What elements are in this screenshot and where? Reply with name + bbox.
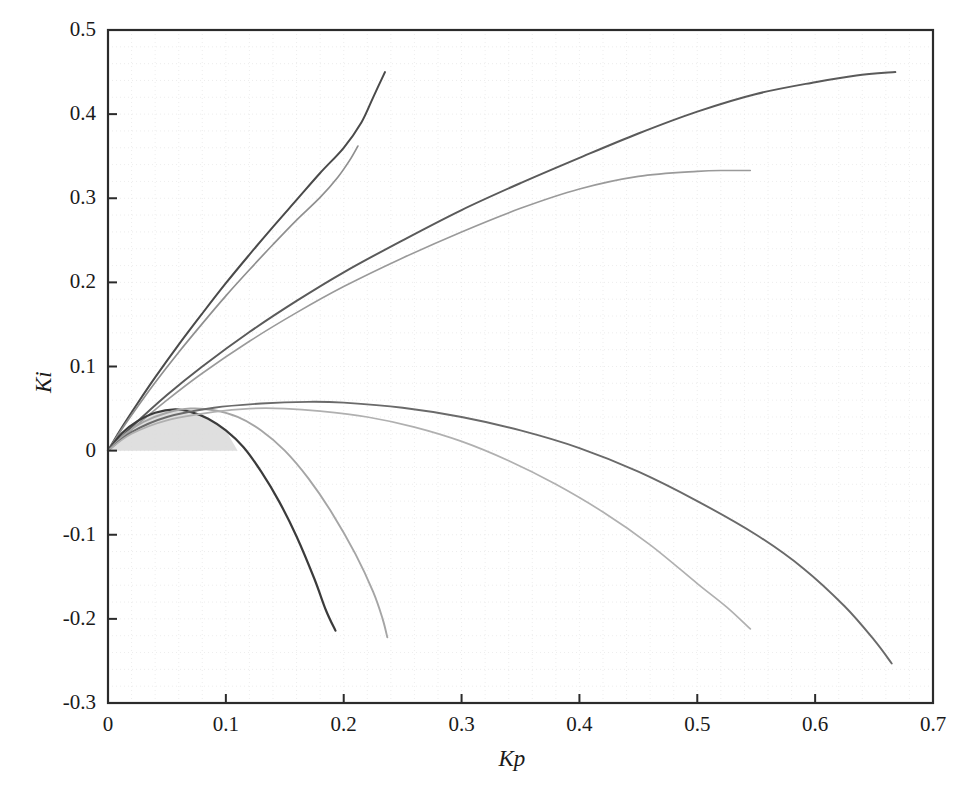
y-axis-tick-label: 0.4 xyxy=(70,103,96,124)
x-axis-tick-label: 0.3 xyxy=(422,714,502,735)
x-axis-tick-label: 0.2 xyxy=(304,714,384,735)
x-axis-tick-label: 0.6 xyxy=(775,714,855,735)
y-axis-tick-label: 0.2 xyxy=(70,271,96,292)
x-axis-tick-label: 0.5 xyxy=(657,714,737,735)
plot-figure: 0.50.40.30.20.10-0.1-0.2-0.300.10.20.30.… xyxy=(0,0,972,788)
y-axis-tick-label: 0.3 xyxy=(70,187,96,208)
y-axis-tick-label: -0.3 xyxy=(63,692,96,713)
y-axis-title: Ki xyxy=(32,371,55,393)
x-axis-title: Kp xyxy=(499,747,526,770)
y-axis-tick-label: -0.2 xyxy=(63,608,96,629)
y-axis-tick-label: -0.1 xyxy=(63,524,96,545)
y-axis-tick-label: 0.5 xyxy=(70,19,96,40)
y-axis-tick-label: 0 xyxy=(86,440,97,461)
kp-ki-stability-plot xyxy=(0,0,972,788)
x-axis-tick-label: 0 xyxy=(68,714,148,735)
x-axis-tick-label: 0.1 xyxy=(186,714,266,735)
x-axis-tick-label: 0.7 xyxy=(893,714,972,735)
x-axis-tick-label: 0.4 xyxy=(539,714,619,735)
y-axis-tick-label: 0.1 xyxy=(70,356,96,377)
